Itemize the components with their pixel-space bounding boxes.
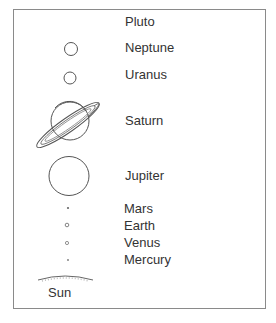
label-venus: Venus xyxy=(124,235,160,250)
saturn-icon xyxy=(33,97,103,152)
jupiter-icon xyxy=(49,157,89,196)
label-earth: Earth xyxy=(124,218,155,233)
mercury-icon xyxy=(67,259,69,261)
sun-icon xyxy=(38,276,93,281)
uranus-icon xyxy=(64,72,76,84)
venus-icon xyxy=(65,241,68,244)
label-neptune: Neptune xyxy=(125,40,174,55)
label-sun: Sun xyxy=(48,285,71,300)
earth-icon xyxy=(65,223,69,227)
label-mercury: Mercury xyxy=(124,252,171,267)
label-jupiter: Jupiter xyxy=(125,168,164,183)
label-uranus: Uranus xyxy=(125,67,167,82)
mars-icon xyxy=(67,207,69,209)
label-saturn: Saturn xyxy=(125,113,163,128)
label-pluto: Pluto xyxy=(125,14,155,29)
label-mars: Mars xyxy=(124,201,153,216)
neptune-icon xyxy=(65,43,78,56)
